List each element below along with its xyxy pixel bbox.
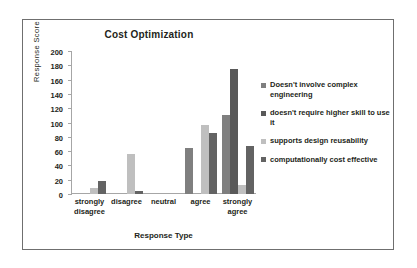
bar (209, 133, 217, 194)
bar (98, 181, 106, 194)
bar-group (145, 51, 182, 194)
legend-item: computationally cost effective (261, 155, 393, 165)
bar (185, 148, 193, 194)
bar-group (108, 51, 145, 194)
legend-label: doesn't require higher skill to use it (270, 108, 393, 127)
x-axis-tick-label: neutral (145, 197, 182, 216)
scan-margin (0, 0, 417, 12)
chart-frame: Cost Optimization Response Score 0204060… (22, 19, 394, 250)
x-axis-tick-label: stronglydisagree (71, 197, 108, 216)
x-axis-tick-label: disagree (108, 197, 145, 216)
legend-swatch-icon (261, 83, 266, 88)
chart-title: Cost Optimization (23, 29, 275, 40)
y-axis-tick-label: 180 (50, 62, 63, 71)
x-axis-tick-label: stronglyagree (219, 197, 256, 216)
legend-label: computationally cost effective (270, 155, 378, 165)
y-axis-tick-label: 40 (55, 162, 63, 171)
y-axis-tick-label: 100 (50, 119, 63, 128)
bar (127, 154, 135, 194)
legend-label: supports design reusability (270, 136, 368, 146)
x-axis-tick-labels: stronglydisagreedisagree neutral agree s… (71, 197, 256, 216)
legend-swatch-icon (261, 157, 266, 162)
bar (246, 146, 254, 194)
y-axis-tick-label: 80 (55, 133, 63, 142)
bar (230, 69, 238, 194)
y-axis-tick-label: 120 (50, 105, 63, 114)
legend-item: doesn't require higher skill to use it (261, 108, 393, 127)
bar-group (182, 51, 219, 194)
bar (135, 191, 143, 194)
bar (201, 125, 209, 194)
y-axis-tick-label: 60 (55, 148, 63, 157)
chart-legend: Doesn't involve complex engineeringdoesn… (261, 80, 393, 173)
x-axis-title: Response Type (71, 231, 256, 240)
bar-group (219, 51, 256, 194)
bar-group (71, 51, 108, 194)
bar (90, 188, 98, 194)
y-axis-tick-label: 0 (59, 191, 63, 200)
legend-item: Doesn't involve complex engineering (261, 80, 393, 99)
bar-groups (71, 51, 256, 194)
y-axis-tick-label: 20 (55, 176, 63, 185)
legend-swatch-icon (261, 111, 266, 116)
y-axis-tick-label: 200 (50, 48, 63, 57)
y-axis-tick: 0 (68, 194, 72, 195)
chart-screenshot: Cost Optimization Response Score 0204060… (0, 0, 417, 268)
y-axis-tick-label: 140 (50, 90, 63, 99)
legend-swatch-icon (261, 139, 266, 144)
bar (222, 115, 230, 194)
bar (238, 185, 246, 194)
legend-label: Doesn't involve complex engineering (270, 80, 393, 99)
y-axis-tick-label: 160 (50, 76, 63, 85)
x-axis-tick-label: agree (182, 197, 219, 216)
legend-item: supports design reusability (261, 136, 393, 146)
y-axis-title: Response Score (32, 21, 41, 82)
